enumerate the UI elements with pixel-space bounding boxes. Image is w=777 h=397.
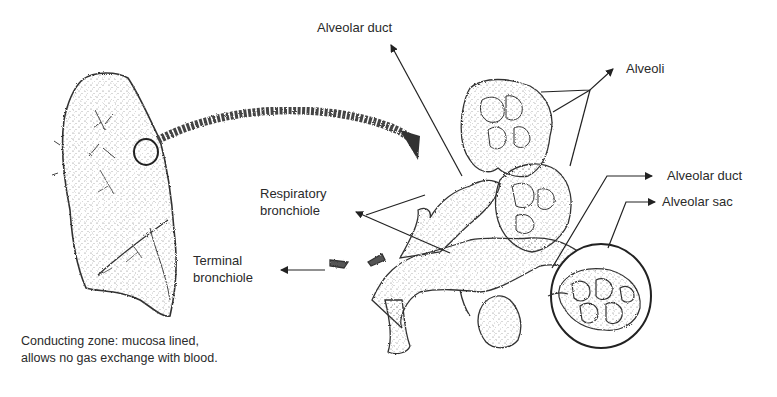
arrow-respiratory-branch xyxy=(366,195,425,215)
arrow-alveolar-duct-top xyxy=(391,45,462,176)
label-respiratory-bronchiole-1: Respiratory xyxy=(260,186,326,201)
curved-zoom-arrow xyxy=(158,110,420,160)
label-alveolar-sac: Alveolar sac xyxy=(662,194,733,209)
label-respiratory-bronchiole-2: bronchiole xyxy=(260,203,320,218)
label-alveolar-duct-top: Alveolar duct xyxy=(317,20,392,35)
arrow-alveolar-sac xyxy=(608,202,655,248)
label-terminal-bronchiole-1: Terminal xyxy=(193,253,242,268)
label-alveoli: Alveoli xyxy=(626,61,664,76)
caption-line-1: Conducting zone: mucosa lined, xyxy=(21,333,199,349)
lung-drawing xyxy=(52,73,176,316)
label-alveolar-duct-right: Alveolar duct xyxy=(667,168,742,183)
caption-line-2: allows no gas exchange with blood. xyxy=(21,350,218,366)
arrow-alveoli xyxy=(541,69,613,92)
respiratory-zone-diagram: Alveolar duct Alveoli Alveolar duct Alve… xyxy=(0,0,777,397)
label-terminal-bronchiole-2: bronchiole xyxy=(193,270,253,285)
